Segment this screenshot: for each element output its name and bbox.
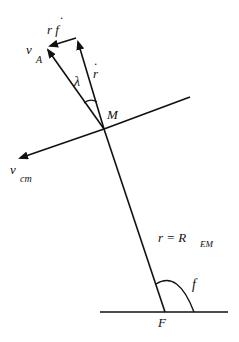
label-v-cm: v [10, 162, 16, 177]
label-v-a-sub: A [35, 54, 43, 65]
r-f-dot-arrow [50, 38, 76, 46]
label-v-cm-sub: cm [20, 173, 32, 184]
label-r-dot-mark: · [94, 57, 97, 71]
label-F: F [157, 315, 167, 330]
label-r-f-dot-mark: · [60, 11, 63, 25]
label-M: M [106, 107, 119, 122]
label-r-eq: r = R [158, 230, 186, 245]
r-dot-arrow [78, 42, 104, 129]
label-f: f [192, 277, 198, 292]
label-v-a: v [26, 42, 32, 57]
f-angle-arc [156, 281, 194, 313]
label-lambda: λ [73, 74, 80, 89]
label-r-eq-sub: EM [199, 239, 213, 249]
diagram-canvas: v A r f · r · λ M v cm r = R EM f F [0, 0, 239, 342]
line-F-M [104, 129, 165, 312]
v-cm-arrow [20, 129, 104, 158]
